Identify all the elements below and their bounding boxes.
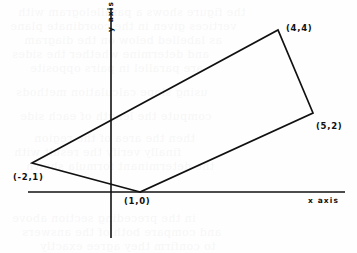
coordinate-plot bbox=[0, 0, 357, 253]
vertex-label-5-2: (5,2) bbox=[316, 122, 342, 131]
x-axis-label: x axis bbox=[308, 197, 339, 205]
parallelogram-outline bbox=[32, 30, 313, 192]
vertex-label-neg2-1: (-2,1) bbox=[13, 173, 44, 182]
vertex-label-4-4: (4,4) bbox=[286, 24, 312, 33]
y-axis-label: y axis bbox=[107, 1, 115, 32]
vertex-label-1-0: (1,0) bbox=[124, 197, 150, 206]
figure-canvas: the figure shows a parallelogram withver… bbox=[0, 0, 357, 253]
